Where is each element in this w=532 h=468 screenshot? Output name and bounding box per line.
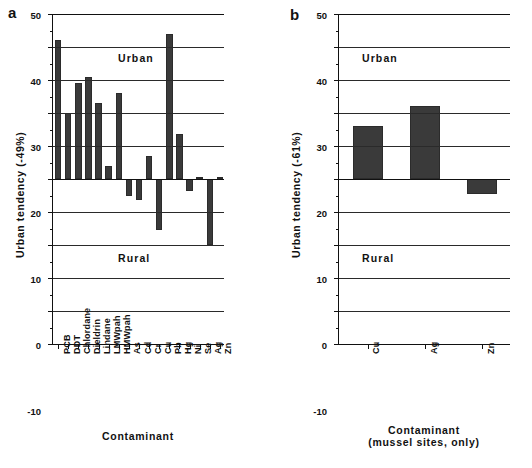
panel-a-urban-label: Urban <box>118 52 154 64</box>
y-axis-tick-label: 10 <box>316 274 327 285</box>
panel-a-x-axis-title: Contaminant <box>52 430 224 442</box>
panel-a-y-axis-title: Urban tendency (-49%) <box>14 132 26 258</box>
y-axis-minor-tick <box>50 97 54 98</box>
y-axis-tick-label: 0 <box>322 340 327 351</box>
y-axis-tick-label: 0 <box>36 340 41 351</box>
y-axis-tick: 40 <box>334 47 339 48</box>
y-axis-minor-tick <box>336 130 340 131</box>
y-axis-tick-label: 30 <box>30 142 41 153</box>
panel-b-letter: b <box>290 6 299 23</box>
gridline <box>339 113 510 114</box>
x-axis-category-label: Ag <box>429 342 439 354</box>
x-axis-tick <box>119 344 120 349</box>
y-axis-minor-tick <box>336 262 340 263</box>
x-axis-tick <box>129 344 130 349</box>
x-axis-tick <box>190 344 191 349</box>
gridline <box>339 80 510 81</box>
y-axis-minor-tick <box>336 163 340 164</box>
x-axis-category-label: HMWpah <box>122 314 132 354</box>
bar <box>126 179 133 196</box>
x-axis-category-label: Dieldrin <box>92 319 102 354</box>
y-axis-minor-tick <box>336 31 340 32</box>
y-axis-tick: -40 <box>48 311 53 312</box>
x-axis-category-label: Cu <box>371 342 381 354</box>
bar <box>116 93 123 179</box>
bar <box>410 106 440 179</box>
x-axis-category-label: LMWpah <box>112 315 122 354</box>
y-axis-tick: 10 <box>334 146 339 147</box>
bar <box>95 103 102 179</box>
x-axis-category-label: Ni <box>193 345 203 354</box>
panel-a-letter: a <box>8 4 16 21</box>
x-axis-tick <box>88 344 89 349</box>
gridline <box>53 113 224 114</box>
x-axis-category-label: Se <box>203 343 213 354</box>
y-axis-minor-tick <box>336 328 340 329</box>
y-axis-tick: -40 <box>334 311 339 312</box>
x-axis-tick <box>482 344 483 349</box>
bar <box>467 179 497 194</box>
zero-line <box>339 179 510 180</box>
bar <box>353 126 383 179</box>
x-axis-category-label: Lindane <box>102 318 112 354</box>
x-axis-category-label: Cu <box>163 342 173 354</box>
y-axis-minor-tick <box>50 328 54 329</box>
y-axis-minor-tick <box>50 196 54 197</box>
x-axis-category-label: As <box>132 342 142 354</box>
bar <box>156 179 163 230</box>
x-axis-category-label: Cr <box>153 344 163 354</box>
gridline <box>339 47 510 48</box>
y-axis-tick: 30 <box>334 80 339 81</box>
gridline <box>53 80 224 81</box>
x-axis-category-label: Chlordane <box>82 308 92 354</box>
y-axis-tick: 50 <box>334 14 339 15</box>
y-axis-tick-label: 20 <box>316 208 327 219</box>
x-axis-tick <box>368 344 369 349</box>
y-axis-tick: 10 <box>48 146 53 147</box>
zero-line <box>53 179 224 180</box>
x-axis-category-label: Zn <box>223 343 233 354</box>
bar <box>176 134 183 179</box>
gridline <box>53 311 224 312</box>
y-axis-tick: 20 <box>48 113 53 114</box>
y-axis-tick: -10 <box>334 212 339 213</box>
x-axis-category-label: PCB <box>62 334 72 354</box>
y-axis-tick: 30 <box>48 80 53 81</box>
x-axis-tick <box>149 344 150 349</box>
y-axis-tick-label: 20 <box>30 208 41 219</box>
y-axis-tick-label: 40 <box>30 76 41 87</box>
y-axis-tick-label: 10 <box>30 274 41 285</box>
y-axis-minor-tick <box>336 97 340 98</box>
y-axis-tick: -50 <box>48 344 53 345</box>
y-axis-minor-tick <box>50 163 54 164</box>
y-axis-tick: 0 <box>48 179 53 180</box>
y-axis-minor-tick <box>50 130 54 131</box>
panel-b-urban-label: Urban <box>362 52 398 64</box>
y-axis-tick-label: 50 <box>30 10 41 21</box>
y-axis-tick-label: -10 <box>27 406 41 417</box>
x-axis-tick <box>109 344 110 349</box>
bar <box>136 179 143 200</box>
y-axis-tick: 50 <box>48 14 53 15</box>
y-axis-tick-label: 30 <box>316 142 327 153</box>
x-axis-tick <box>68 344 69 349</box>
gridline <box>339 311 510 312</box>
gridline <box>53 245 224 246</box>
y-axis-tick-label: 50 <box>316 10 327 21</box>
panel-b-x-axis-title-line2: (mussel sites, only) <box>328 436 520 448</box>
x-axis-tick <box>200 344 201 349</box>
gridline <box>53 212 224 213</box>
x-axis-category-label: Cd <box>143 342 153 354</box>
x-axis-category-label: Pb <box>173 342 183 354</box>
bar <box>85 77 92 179</box>
x-axis-tick <box>58 344 59 349</box>
x-axis-tick <box>169 344 170 349</box>
y-axis-minor-tick <box>336 64 340 65</box>
y-axis-tick: 0 <box>334 179 339 180</box>
panel-b-y-axis-title: Urban tendency (-61%) <box>290 132 302 258</box>
y-axis-minor-tick <box>50 64 54 65</box>
x-axis-category-label: Ag <box>213 342 223 354</box>
bar <box>166 34 173 179</box>
panel-b-rural-label: Rural <box>362 252 394 264</box>
y-axis-minor-tick <box>50 262 54 263</box>
